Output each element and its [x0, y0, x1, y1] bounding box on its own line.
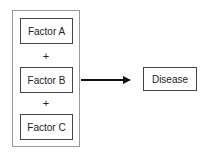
arrow-head-icon — [123, 76, 131, 84]
factor-a-box: Factor A — [20, 18, 73, 44]
arrow-line — [81, 79, 125, 81]
plus-sign-1: + — [36, 50, 56, 62]
factor-c-box: Factor C — [20, 114, 73, 140]
plus-sign-2: + — [36, 97, 56, 109]
disease-box: Disease — [143, 67, 197, 91]
factor-b-box: Factor B — [20, 67, 73, 93]
